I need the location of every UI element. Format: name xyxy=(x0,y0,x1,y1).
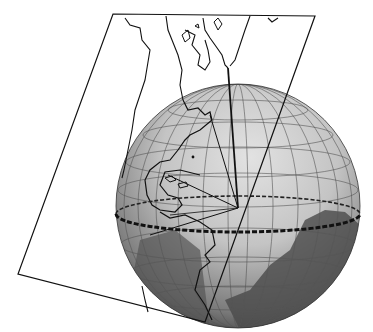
projection-diagram xyxy=(0,0,373,332)
plane-coastline-south xyxy=(142,286,148,312)
plane-coastline-arctic-islands xyxy=(182,18,222,42)
plane-coastline-east xyxy=(230,16,278,66)
bermuda-dot xyxy=(192,156,195,159)
